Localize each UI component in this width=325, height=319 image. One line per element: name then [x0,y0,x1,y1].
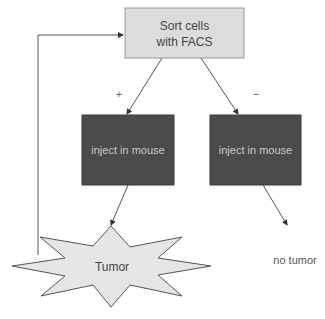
inject-right-label: inject in mouse [219,144,292,156]
inject-left-label: inject in mouse [91,144,164,156]
positive-branch-arrow [127,58,162,114]
negative-branch-arrow [201,58,238,114]
negative-label: − [253,88,259,100]
inject-left-node: inject in mouse [82,115,174,185]
no-tumor-arrow [263,185,287,225]
positive-label: + [116,88,122,100]
tumor-node: Tumor [12,226,211,307]
sort-cells-label-line2: with FACS [155,35,212,49]
facs-tumor-diagram: Sort cells with FACS + − inject in mouse… [0,0,325,319]
inject-right-node: inject in mouse [210,115,301,185]
no-tumor-label: no tumor [273,254,317,266]
sort-cells-node: Sort cells with FACS [125,8,244,58]
sort-cells-label-line1: Sort cells [160,19,209,33]
tumor-label: Tumor [95,260,129,274]
tumor-arrow [111,185,128,225]
